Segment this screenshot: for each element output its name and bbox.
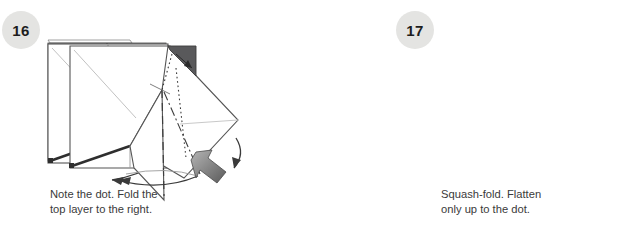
curved-arrow-18	[232, 138, 241, 168]
push-block-arrow-18	[191, 150, 226, 183]
step-panel-18: 18	[404, 0, 642, 227]
origami-figure-18	[0, 28, 250, 213]
figure-18-canvas	[0, 28, 250, 213]
